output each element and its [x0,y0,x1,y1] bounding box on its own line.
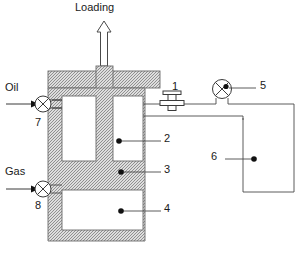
gas-inlet-valve[interactable] [35,181,51,197]
callout-label-2: 2 [164,133,170,144]
callout-leader-6 [225,156,257,162]
oil-inlet-valve[interactable] [35,96,51,112]
loading-arrow-icon [97,21,111,66]
callout-label-7: 7 [35,117,41,128]
inline-fitting-valve[interactable] [160,91,184,111]
callout-label-3: 3 [164,164,170,175]
reservoir-vessel [243,104,294,192]
figure-container: Loading Oil Gas 1 2 3 4 5 6 7 8 [0,0,303,271]
callout-label-4: 4 [164,203,170,214]
oil-label: Oil [5,82,18,93]
callout-label-8: 8 [35,200,41,211]
cylinder-body [48,88,145,241]
callout-label-6: 6 [211,151,217,162]
gas-label: Gas [5,166,25,177]
pressure-gauge-valve[interactable] [213,80,232,99]
callout-label-1: 1 [172,81,178,92]
schematic-drawing [0,0,303,271]
callout-label-5: 5 [260,80,266,91]
loading-label: Loading [75,2,114,13]
